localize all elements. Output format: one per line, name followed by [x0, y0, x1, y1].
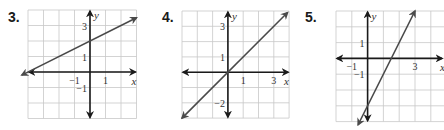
x-axis-label: x — [439, 61, 444, 73]
y-tick-label: 1 — [360, 38, 365, 49]
coordinate-graph-4: xy1331−2 — [182, 10, 289, 118]
x-tick-label: 1 — [103, 75, 108, 86]
x-tick-label: 3 — [271, 75, 276, 86]
y-axis-label: y — [93, 9, 99, 21]
coordinate-graph-5: xy−131−1 — [336, 10, 444, 125]
y-tick-label: 3 — [82, 21, 87, 32]
graphs-canvas: xy−1131−1xy1331−2xy−131−1 — [0, 0, 444, 130]
x-tick-label: 3 — [413, 61, 418, 72]
y-tick-label: 1 — [220, 52, 225, 63]
graph-line — [182, 13, 288, 119]
y-axis-label: y — [231, 10, 237, 22]
y-tick-label: 3 — [220, 21, 225, 32]
coordinate-graph-3: xy−1131−1 — [22, 9, 137, 119]
x-axis-label: x — [283, 75, 289, 87]
y-tick-label: 1 — [82, 52, 87, 63]
x-axis-label: x — [131, 75, 137, 87]
y-tick-label: −1 — [76, 83, 87, 94]
x-tick-label: 1 — [241, 75, 246, 86]
y-tick-label: −1 — [354, 69, 365, 80]
graph-line — [358, 11, 415, 125]
y-tick-label: −2 — [214, 98, 225, 109]
y-axis-label: y — [371, 10, 377, 22]
graph-line — [22, 18, 137, 75]
